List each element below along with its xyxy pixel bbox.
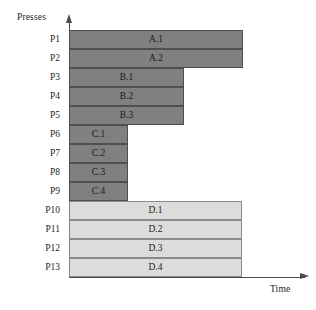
task-bar-label: A.1 xyxy=(149,35,163,45)
row-label-p10: P10 xyxy=(9,201,69,220)
task-bar-label: B.1 xyxy=(120,73,133,83)
row-label-p3: P3 xyxy=(9,68,69,87)
task-bar-label: C.3 xyxy=(92,168,105,178)
task-bar-c-3[interactable]: C.3 xyxy=(69,163,128,182)
task-bar-label: B.3 xyxy=(120,111,133,121)
row-label-p5: P5 xyxy=(9,106,69,125)
task-bar-a-2[interactable]: A.2 xyxy=(69,49,243,68)
y-axis-title: Presses xyxy=(17,12,46,22)
arrow-up-icon xyxy=(66,14,72,23)
task-bar-label: B.2 xyxy=(120,92,133,102)
task-bar-label: C.2 xyxy=(92,149,105,159)
x-axis-line xyxy=(69,277,305,278)
task-bar-label: A.2 xyxy=(149,54,163,64)
task-bar-a-1[interactable]: A.1 xyxy=(69,30,243,49)
task-bar-label: C.1 xyxy=(92,130,105,140)
task-bar-c-4[interactable]: C.4 xyxy=(69,182,128,201)
task-bar-label: C.4 xyxy=(92,187,105,197)
task-bar-label: D.4 xyxy=(149,263,163,273)
row-label-p9: P9 xyxy=(9,182,69,201)
row-label-p11: P11 xyxy=(9,220,69,239)
task-bar-b-2[interactable]: B.2 xyxy=(69,87,184,106)
row-label-p4: P4 xyxy=(9,87,69,106)
task-bar-label: D.2 xyxy=(149,225,163,235)
task-bar-b-3[interactable]: B.3 xyxy=(69,106,184,125)
row-label-p13: P13 xyxy=(9,258,69,277)
task-bar-c-2[interactable]: C.2 xyxy=(69,144,128,163)
task-bar-label: D.3 xyxy=(149,244,163,254)
row-label-p7: P7 xyxy=(9,144,69,163)
row-label-p12: P12 xyxy=(9,239,69,258)
task-bar-label: D.1 xyxy=(149,206,163,216)
task-bar-d-4[interactable]: D.4 xyxy=(69,258,242,277)
row-label-p2: P2 xyxy=(9,49,69,68)
task-bar-d-1[interactable]: D.1 xyxy=(69,201,242,220)
row-label-p1: P1 xyxy=(9,30,69,49)
task-bar-b-1[interactable]: B.1 xyxy=(69,68,184,87)
row-label-p6: P6 xyxy=(9,125,69,144)
arrow-right-icon xyxy=(300,273,309,279)
row-label-p8: P8 xyxy=(9,163,69,182)
task-bar-d-3[interactable]: D.3 xyxy=(69,239,242,258)
x-axis-title: Time xyxy=(270,284,290,294)
task-bar-d-2[interactable]: D.2 xyxy=(69,220,242,239)
gantt-chart: Presses Time P1A.1P2A.2P3B.1P4B.2P5B.3P6… xyxy=(0,0,316,310)
task-bar-c-1[interactable]: C.1 xyxy=(69,125,128,144)
